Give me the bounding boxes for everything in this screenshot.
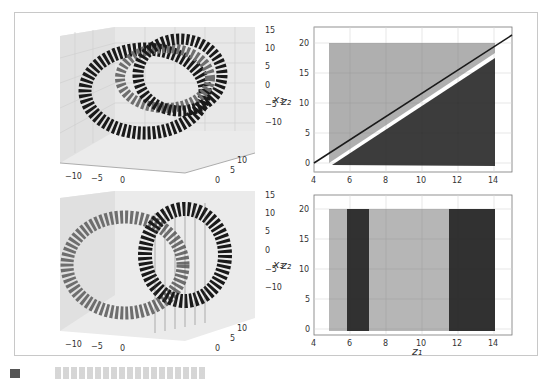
svg-text:10: 10	[237, 324, 247, 333]
svg-text:0: 0	[305, 325, 310, 334]
svg-text:20: 20	[299, 205, 309, 214]
svg-text:0: 0	[215, 176, 220, 183]
svg-text:6: 6	[347, 339, 352, 348]
svg-text:5: 5	[265, 227, 270, 236]
svg-text:0: 0	[120, 176, 125, 183]
svg-text:15: 15	[299, 69, 309, 78]
svg-text:4: 4	[311, 339, 316, 348]
figure-caption	[55, 367, 205, 379]
caption-marker-icon	[10, 369, 20, 378]
svg-text:10: 10	[299, 265, 309, 274]
z1-axis-label: z₁	[411, 345, 422, 355]
svg-text:12: 12	[452, 176, 462, 183]
svg-text:5: 5	[305, 129, 310, 138]
svg-text:4: 4	[311, 176, 316, 183]
svg-text:−10: −10	[65, 340, 82, 349]
svg-text:0: 0	[265, 246, 270, 255]
svg-text:5: 5	[230, 334, 235, 343]
svg-text:5: 5	[230, 166, 235, 175]
svg-text:15: 15	[265, 26, 275, 35]
svg-text:6: 6	[347, 176, 352, 183]
svg-text:0: 0	[120, 344, 125, 353]
svg-text:12: 12	[452, 339, 462, 348]
svg-text:−10: −10	[65, 172, 82, 181]
svg-text:−5: −5	[91, 174, 103, 183]
svg-text:0: 0	[305, 159, 310, 168]
svg-text:10: 10	[299, 99, 309, 108]
unrolled-scatter-bottom: 20151050 468101214 z₂ z₁	[277, 183, 537, 355]
unrolled-scatter-top: 20151050 468101214 z₂	[277, 13, 537, 183]
z2-axis-label: z₂	[280, 259, 292, 272]
svg-text:10: 10	[265, 44, 275, 53]
svg-text:0: 0	[265, 81, 270, 90]
figure-frame: 151050−5−10 −10−50 0510 x₃ 20151050 4681…	[14, 12, 538, 356]
svg-text:15: 15	[265, 191, 275, 200]
svg-text:0: 0	[215, 344, 220, 353]
svg-text:10: 10	[265, 209, 275, 218]
svg-text:15: 15	[299, 235, 309, 244]
swiss-roll-3d-plot-bottom: 151050−5−10 −10−50 0510 x₃	[15, 183, 285, 355]
svg-text:14: 14	[488, 339, 498, 348]
svg-text:10: 10	[416, 176, 426, 183]
svg-text:14: 14	[488, 176, 498, 183]
svg-text:10: 10	[237, 156, 247, 165]
svg-text:5: 5	[305, 295, 310, 304]
z2-axis-label: z₂	[280, 95, 292, 108]
svg-text:−5: −5	[91, 342, 103, 351]
swiss-roll-3d-plot-top: 151050−5−10 −10−50 0510 x₃	[15, 13, 285, 183]
svg-text:5: 5	[265, 62, 270, 71]
svg-text:8: 8	[383, 339, 388, 348]
svg-text:20: 20	[299, 39, 309, 48]
svg-text:8: 8	[383, 176, 388, 183]
